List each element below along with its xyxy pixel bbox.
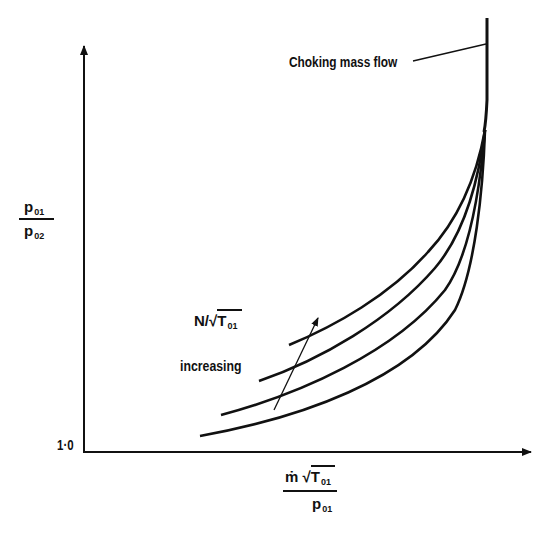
sqrt-icon: √ (209, 312, 217, 329)
choke-leader-line (413, 44, 486, 61)
y-label-numerator-sub: 01 (34, 207, 44, 217)
speed-label-prefix: N/ (194, 312, 209, 329)
speed-label-var: T (217, 312, 226, 329)
y-tick-1-0: 1·0 (57, 437, 74, 453)
y-axis-label: p01 p02 (19, 198, 54, 241)
y-label-fraction-bar (19, 218, 54, 220)
x-label-fraction-bar (283, 490, 337, 492)
speed-increase-arrow (274, 318, 318, 410)
y-label-denominator: p (24, 222, 33, 239)
speed-curve-1 (200, 130, 485, 436)
speed-curve-2 (221, 130, 485, 415)
x-label-denominator: p (312, 495, 321, 512)
x-label-var: T (311, 468, 320, 485)
y-label-denominator-sub: 02 (34, 231, 44, 241)
speed-annotation: N/√T01 (190, 312, 242, 331)
x-label-denominator-sub: 01 (322, 504, 332, 514)
x-label-mdot: ṁ (285, 468, 298, 485)
compressor-characteristic-diagram (0, 0, 554, 556)
y-label-numerator: p (24, 198, 33, 215)
sqrt-icon: √ (303, 468, 311, 485)
speed-label-sub: 01 (227, 321, 237, 331)
choke-annotation-label: Choking mass flow (289, 54, 397, 70)
speed-annotation-caption: increasing (180, 357, 242, 374)
choke-line (484, 18, 487, 132)
x-label-var-sub: 01 (321, 477, 331, 487)
x-axis-label: ṁ √T01 p01 (283, 468, 337, 514)
